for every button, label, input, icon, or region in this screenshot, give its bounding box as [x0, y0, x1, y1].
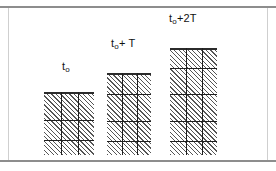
bar-time-label: to+2T: [169, 12, 197, 24]
hatched-bar: [107, 73, 151, 155]
bar-grid-horizontal: [107, 94, 151, 95]
label-subscript: o: [172, 17, 177, 26]
frame-top-rule: [0, 6, 276, 8]
bar-grid-horizontal: [107, 141, 151, 142]
frame-left-rule: [8, 8, 9, 160]
frame-right-rule: [267, 8, 268, 160]
bar-time-label: to: [62, 60, 70, 72]
hatched-bar: [44, 92, 94, 155]
label-suffix: +2T: [177, 12, 197, 24]
bar-top-cap: [170, 48, 217, 50]
label-subscript: o: [114, 42, 119, 51]
bar-grid-vertical: [186, 48, 187, 155]
bar-time-label: to+ T: [111, 37, 136, 49]
bar-grid-vertical: [202, 48, 203, 155]
label-suffix: + T: [119, 37, 136, 49]
hatched-bar: [170, 48, 217, 155]
bar-grid-vertical: [61, 92, 62, 155]
bar-grid-vertical: [122, 73, 123, 155]
label-subscript: o: [65, 65, 70, 74]
bar-top-cap: [44, 92, 94, 94]
bar-grid-horizontal: [44, 140, 94, 141]
bar-grid-horizontal: [44, 120, 94, 121]
bar-grid-horizontal: [170, 94, 217, 95]
bar-grid-horizontal: [170, 141, 217, 142]
bar-grid-vertical: [137, 73, 138, 155]
figure-canvas: toto+ Tto+2T: [0, 0, 276, 171]
bar-grid-horizontal: [170, 68, 217, 69]
bar-top-cap: [107, 73, 151, 75]
bar-grid-horizontal: [170, 121, 217, 122]
bar-grid-vertical: [78, 92, 79, 155]
frame-bottom-rule: [0, 160, 276, 162]
bar-grid-horizontal: [107, 121, 151, 122]
